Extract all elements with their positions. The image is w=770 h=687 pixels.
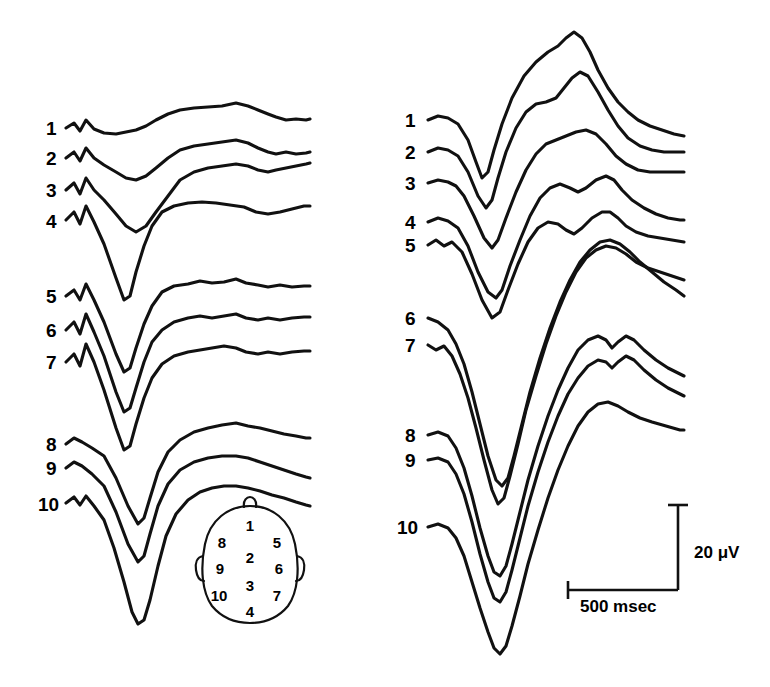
erp-waveform-figure: 1 2 3 4 5 6 7 8 9 10 [0, 0, 770, 687]
figure-canvas: 1 2 3 4 5 6 7 8 9 10 [0, 0, 770, 687]
channel-label-right-7: 7 [405, 335, 416, 356]
channel-label-right-6: 6 [405, 308, 416, 329]
channel-label-right-10: 10 [397, 517, 418, 538]
calibration-scale-bar: 20 μV 500 msec [568, 505, 740, 616]
trace-right-6 [428, 240, 684, 486]
channel-label-left-6: 6 [46, 320, 57, 341]
channel-label-left-4: 4 [46, 211, 57, 232]
electrode-label-7: 7 [273, 587, 281, 604]
electrode-label-5: 5 [273, 534, 281, 551]
channel-label-left-2: 2 [46, 148, 57, 169]
channel-label-right-1: 1 [405, 110, 416, 131]
electrode-label-2: 2 [246, 549, 254, 566]
electrode-label-1: 1 [246, 517, 254, 534]
right-panel-traces [428, 32, 684, 654]
electrode-montage-head: 1 2 3 4 5 6 7 8 9 10 [196, 497, 304, 623]
left-panel-channel-labels: 1 2 3 4 5 6 7 8 9 10 [38, 118, 59, 515]
channel-label-left-5: 5 [46, 286, 57, 307]
trace-right-1 [428, 32, 684, 178]
electrode-label-3: 3 [246, 577, 254, 594]
electrode-label-9: 9 [216, 560, 224, 577]
electrode-label-6: 6 [275, 560, 283, 577]
amplitude-scale-label: 20 μV [694, 543, 740, 562]
channel-label-left-1: 1 [46, 118, 57, 139]
trace-right-4 [428, 176, 684, 298]
channel-label-left-9: 9 [46, 458, 57, 479]
trace-left-6 [66, 314, 310, 412]
trace-left-1 [66, 103, 310, 134]
channel-label-right-5: 5 [405, 235, 416, 256]
trace-right-10 [428, 402, 684, 654]
channel-label-right-2: 2 [405, 142, 416, 163]
right-panel-channel-labels: 1 2 3 4 5 6 7 8 9 10 [397, 110, 418, 538]
channel-label-left-8: 8 [46, 434, 57, 455]
electrode-label-10: 10 [211, 587, 228, 604]
left-panel: 1 2 3 4 5 6 7 8 9 10 [38, 103, 310, 624]
channel-label-left-3: 3 [46, 180, 57, 201]
channel-label-left-10: 10 [38, 494, 59, 515]
electrode-label-4: 4 [246, 603, 255, 620]
channel-label-right-3: 3 [405, 173, 416, 194]
channel-label-left-7: 7 [46, 352, 57, 373]
electrode-label-8: 8 [218, 534, 226, 551]
channel-label-right-9: 9 [405, 450, 416, 471]
trace-left-3 [66, 163, 310, 232]
time-scale-label: 500 msec [580, 597, 657, 616]
trace-left-5 [66, 279, 310, 372]
channel-label-right-8: 8 [405, 425, 416, 446]
channel-label-right-4: 4 [405, 212, 416, 233]
trace-left-8 [66, 423, 310, 524]
right-panel: 1 2 3 4 5 6 7 8 9 10 [397, 32, 684, 654]
